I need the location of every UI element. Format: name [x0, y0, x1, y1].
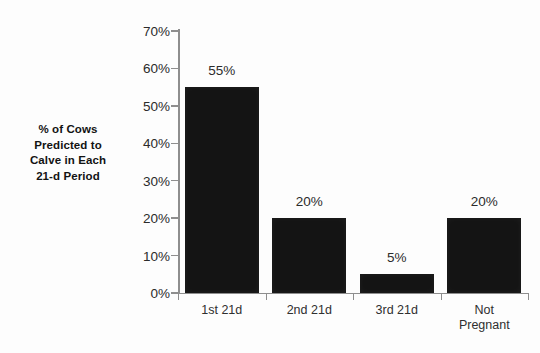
y-tick-label: 10%: [114, 248, 170, 263]
x-category-label: 3rd 21d: [376, 303, 418, 318]
y-tick-label: 50%: [114, 98, 170, 113]
x-category-label-line: 1st 21d: [201, 303, 242, 318]
x-category-label: 1st 21d: [201, 303, 242, 318]
x-category-label-line: 2nd 21d: [287, 303, 332, 318]
bar-value-label: 20%: [296, 194, 323, 209]
x-category-label: 2nd 21d: [287, 303, 332, 318]
bar: [447, 218, 521, 293]
x-category-label-line: Not: [459, 303, 510, 318]
y-tick-label: 60%: [114, 61, 170, 76]
x-category-label-line: 3rd 21d: [376, 303, 418, 318]
y-tick-label: 30%: [114, 173, 170, 188]
bar: [272, 218, 346, 293]
bar-chart-figure: % of Cows Predicted to Calve in Each 21-…: [0, 0, 540, 353]
x-tick-mark: [178, 293, 179, 300]
bar: [185, 87, 259, 293]
bar-value-label: 55%: [208, 63, 235, 78]
y-tick-label: 40%: [114, 136, 170, 151]
x-tick-mark: [441, 293, 442, 300]
x-tick-mark: [266, 293, 267, 300]
bar-value-label: 20%: [471, 194, 498, 209]
bar-value-label: 5%: [387, 250, 407, 265]
x-tick-mark: [353, 293, 354, 300]
x-category-label: NotPregnant: [459, 303, 510, 333]
bar: [360, 274, 434, 293]
y-tick-label: 20%: [114, 211, 170, 226]
y-tick-label: 70%: [114, 24, 170, 39]
y-tick-label: 0%: [114, 286, 170, 301]
y-axis-tick-labels: 0%10%20%30%40%50%60%70%: [104, 0, 170, 353]
x-category-label-line: Pregnant: [459, 318, 510, 333]
x-tick-mark: [528, 293, 529, 300]
